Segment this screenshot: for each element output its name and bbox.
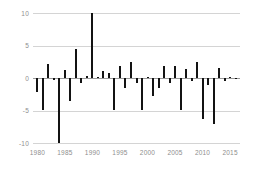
x-axis-tick-label: 2005 — [167, 149, 182, 157]
x-axis-tick-label: 1995 — [112, 149, 127, 157]
x-axis-tick-label: 2010 — [195, 149, 210, 157]
x-axis-tick-label: 1985 — [57, 149, 72, 157]
x-axis-tick-label: 1990 — [85, 149, 100, 157]
x-axis-tick-label: 2015 — [222, 149, 237, 157]
x-axis-tick-label: 2000 — [140, 149, 155, 157]
x-axis: 19801985199019952000200520102015 — [0, 0, 255, 171]
bar-chart: 1050-5-10 198019851990199520002005201020… — [0, 0, 255, 171]
x-axis-tick-label: 1980 — [30, 149, 45, 157]
